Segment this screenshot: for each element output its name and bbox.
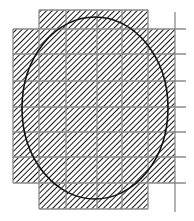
hatched-row: [13, 81, 175, 107]
hatched-squares: [13, 10, 175, 209]
hatched-row: [13, 132, 175, 157]
hatched-row: [13, 157, 175, 183]
hatched-row: [13, 107, 175, 132]
hatched-row: [39, 10, 148, 29]
hatched-row: [13, 54, 175, 81]
ellipse-grid-diagram: [0, 0, 194, 221]
